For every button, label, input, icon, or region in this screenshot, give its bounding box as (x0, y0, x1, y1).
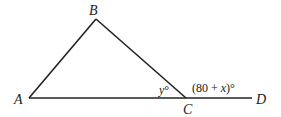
label-point-c: C (183, 102, 193, 117)
segment-ab (29, 19, 96, 98)
angle-exterior-label: (80 + x)° (192, 81, 235, 95)
angle-y-label: y° (158, 83, 169, 97)
label-point-d: D (255, 92, 266, 107)
segment-bc (96, 19, 186, 98)
triangle-diagram: B A C D y° (80 + x)° (0, 0, 281, 117)
label-point-b: B (89, 3, 98, 18)
label-point-a: A (13, 92, 23, 107)
